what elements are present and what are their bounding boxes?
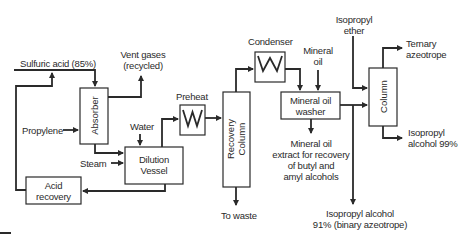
dilution-to-preheat-line <box>162 119 178 147</box>
vent-gases-line-1: Vent gases <box>118 49 168 60</box>
mineral-oil-extract-label: Mineral oil extract for recovery of buty… <box>266 138 356 182</box>
sulfuric-acid-line <box>14 70 95 86</box>
recovery-line-1: Recovery <box>225 109 236 169</box>
mineral-oil-washer-unit-label: Mineral oil washer <box>281 95 340 117</box>
propylene-label: Propylene <box>22 125 63 136</box>
ipa-99-line-1: Isopropyl <box>408 127 458 138</box>
acid-recovery-line-2: recovery <box>26 191 81 202</box>
vent-gases-line <box>108 76 141 97</box>
steam-label: Steam <box>80 158 106 169</box>
isopropyl-alcohol-91-label: Isopropyl alcohol 91% (binary azeotrope) <box>305 208 415 230</box>
condenser-label: Condenser <box>248 36 293 47</box>
extract-line-2: extract for recovery <box>266 149 356 160</box>
washer-line-1: Mineral oil <box>281 95 340 106</box>
absorber-unit-label: Absorber <box>89 86 100 146</box>
dilution-line-1: Dilution <box>125 154 183 165</box>
ternary-line-1: Ternary <box>406 38 446 49</box>
mineral-oil-feed-label: Mineral oil <box>300 45 336 67</box>
ipa-91-line-2: 91% (binary azeotrope) <box>305 219 415 230</box>
dilution-to-acid-recovery-line <box>83 184 165 191</box>
isopropyl-ether-line-1: Isopropyl <box>333 14 375 25</box>
vent-gases-label: Vent gases (recycled) <box>118 49 168 71</box>
ipa-91-line-1: Isopropyl alcohol <box>305 208 415 219</box>
ipa-99-line <box>383 126 402 138</box>
acid-recovery-line-1: Acid <box>26 180 81 191</box>
acid-recovery-unit-label: Acid recovery <box>26 180 81 202</box>
ternary-azeotrope-label: Ternary azeotrope <box>406 38 446 60</box>
dilution-line-2: Vessel <box>125 165 183 176</box>
isopropyl-alcohol-99-label: Isopropyl alcohol 99% <box>408 127 458 149</box>
recovery-to-condenser-line <box>236 69 253 92</box>
mineral-oil-line-2: oil <box>300 56 336 67</box>
sulfuric-acid-label: Sulfuric acid (85%) <box>20 58 96 69</box>
extract-line-4: amyl alcohols <box>266 171 356 182</box>
column-unit-label: Column <box>378 67 389 127</box>
extract-line-3: of butyl and <box>266 160 356 171</box>
ipa-99-line-2: alcohol 99% <box>408 138 458 149</box>
washer-line-2: washer <box>281 106 340 117</box>
ternary-line <box>383 48 402 68</box>
dilution-vessel-unit-label: Dilution Vessel <box>125 154 183 176</box>
preheat-label: Preheat <box>176 91 208 102</box>
recovery-line-2: Column <box>236 109 247 169</box>
water-label: Water <box>130 121 154 132</box>
extract-line-1: Mineral oil <box>266 138 356 149</box>
recovery-column-unit-label: Recovery Column <box>225 109 247 169</box>
ether-line <box>353 36 367 88</box>
condenser-to-washer-line <box>285 69 300 90</box>
vent-gases-line-2: (recycled) <box>118 60 168 71</box>
to-waste-label: To waste <box>221 210 257 221</box>
page-corner-mark <box>0 232 11 234</box>
isopropyl-ether-label: Isopropyl ether <box>333 14 375 36</box>
isopropyl-ether-line-2: ether <box>333 25 375 36</box>
ternary-line-2: azeotrope <box>406 49 446 60</box>
mineral-oil-line-1: Mineral <box>300 45 336 56</box>
